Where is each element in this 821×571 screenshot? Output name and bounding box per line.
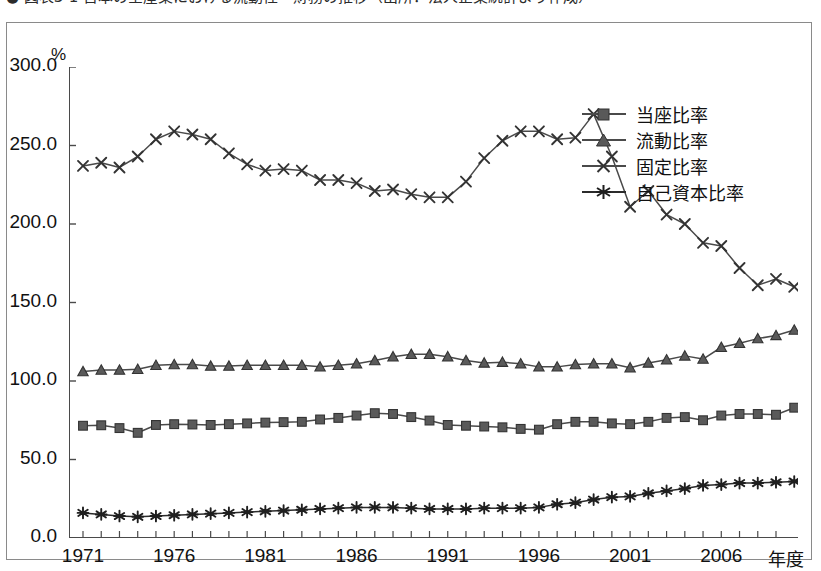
legend-item: 固定比率 [581, 153, 771, 179]
legend-marker-x-icon [581, 157, 627, 175]
legend-label: 当座比率 [636, 101, 708, 127]
figure-caption: ● 図表3-1 日本の全産業における流動性・財務の推移（出所：法人企業統計より作… [6, 0, 593, 6]
legend-label: 固定比率 [636, 153, 708, 179]
x-axis-tick-label: 1996 [518, 545, 560, 567]
x-axis-tick-label: 1971 [62, 545, 104, 567]
x-axis-tick-label: 1981 [244, 545, 286, 567]
x-axis-tick-label: 1991 [427, 545, 469, 567]
legend-label: 自己資本比率 [636, 179, 744, 205]
x-axis-tick-label: 2001 [609, 545, 651, 567]
legend-label: 流動比率 [636, 127, 708, 153]
legend-marker-star-icon [581, 183, 627, 201]
x-axis-tick-label: 1976 [153, 545, 195, 567]
legend-item: 当座比率 [581, 101, 771, 127]
legend-item: 流動比率 [581, 127, 771, 153]
x-axis-title: 年度 [768, 545, 804, 571]
legend-marker-triangle-icon [581, 131, 627, 149]
x-axis-tick-label: 1986 [335, 545, 377, 567]
x-axis-tick-label: 2006 [700, 545, 742, 567]
figure-caption-strip: ● 図表3-1 日本の全産業における流動性・財務の推移（出所：法人企業統計より作… [0, 0, 821, 20]
figure-frame: % 19711976198119861991199620012006年度 当座比… [6, 22, 812, 560]
legend-item: 自己資本比率 [581, 179, 771, 205]
legend-marker-square-icon [581, 105, 627, 123]
chart-legend: 当座比率 流動比率 固定比率 [581, 101, 771, 205]
